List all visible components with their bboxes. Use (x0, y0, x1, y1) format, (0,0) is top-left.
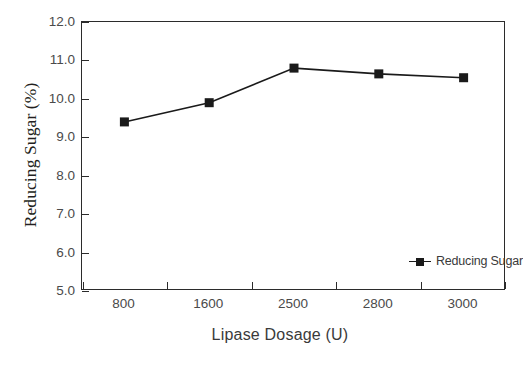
x-tick-mark (421, 282, 422, 289)
y-tick-mark (82, 291, 89, 292)
x-tick-label: 800 (83, 296, 163, 311)
legend-label: Reducing Sugar (436, 254, 523, 268)
x-tick-label: 3000 (423, 296, 503, 311)
y-tick-mark (82, 137, 89, 138)
y-tick-label: 7.0 (15, 206, 75, 221)
x-tick-label: 1600 (168, 296, 248, 311)
legend-marker-icon (409, 256, 431, 267)
x-tick-mark (83, 282, 84, 289)
plot-area: Reducing Sugar (81, 21, 505, 290)
data-point-marker (374, 69, 383, 78)
x-tick-mark (167, 282, 168, 289)
data-point-marker (459, 73, 468, 82)
y-tick-label: 12.0 (15, 14, 75, 29)
data-point-marker (290, 64, 299, 73)
y-tick-mark (82, 99, 89, 100)
x-tick-mark (505, 282, 506, 289)
y-tick-mark (82, 176, 89, 177)
y-axis-ticks: 12.011.010.09.08.07.06.05.0 (8, 0, 75, 365)
y-tick-mark (82, 214, 89, 215)
x-axis-title: Lipase Dosage (U) (81, 326, 479, 344)
y-tick-label: 5.0 (15, 283, 75, 298)
data-point-marker (120, 117, 129, 126)
y-tick-mark (82, 22, 89, 23)
x-tick-label: 2500 (253, 296, 333, 311)
y-tick-label: 8.0 (15, 167, 75, 182)
x-tick-label: 2800 (338, 296, 418, 311)
chart-legend: Reducing Sugar (409, 254, 523, 268)
y-tick-mark (82, 60, 89, 61)
y-tick-label: 11.0 (15, 52, 75, 67)
data-point-marker (205, 98, 214, 107)
series-markers (120, 64, 468, 127)
y-tick-label: 9.0 (15, 129, 75, 144)
y-tick-mark (82, 253, 89, 254)
y-tick-label: 10.0 (15, 90, 75, 105)
series-reducing-sugar (82, 22, 506, 291)
y-tick-label: 6.0 (15, 244, 75, 259)
series-line (124, 68, 463, 122)
x-tick-mark (252, 282, 253, 289)
x-tick-mark (336, 282, 337, 289)
